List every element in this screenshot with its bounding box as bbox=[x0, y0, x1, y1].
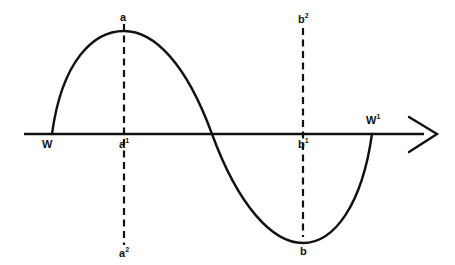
label-trough-top-b2-superscript: 2 bbox=[305, 12, 309, 19]
diagram-canvas bbox=[0, 0, 455, 265]
label-origin-w: W bbox=[42, 139, 52, 150]
label-peak-a: a bbox=[120, 12, 126, 23]
label-peak-bottom-a2: a2 bbox=[119, 246, 129, 259]
label-trough-top-b2: b2 bbox=[298, 12, 309, 25]
label-trough-foot-b1-superscript: 1 bbox=[305, 137, 309, 144]
label-trough-top-b2-base: b bbox=[298, 13, 305, 25]
label-end-w1: W1 bbox=[366, 113, 380, 126]
label-peak-foot-a1: a1 bbox=[119, 137, 129, 150]
label-peak-bottom-a2-superscript: 2 bbox=[125, 246, 129, 253]
label-trough-b: b bbox=[300, 246, 307, 257]
label-peak-foot-a1-superscript: 1 bbox=[125, 137, 129, 144]
label-end-w1-base: W bbox=[366, 114, 376, 126]
label-end-w1-superscript: 1 bbox=[376, 113, 380, 120]
sine-curve bbox=[52, 31, 372, 243]
sine-wave-diagram: a a1 a2 b2 b1 b W W1 bbox=[0, 0, 455, 265]
label-trough-foot-b1: b1 bbox=[298, 137, 309, 150]
label-trough-foot-b1-base: b bbox=[298, 138, 305, 150]
